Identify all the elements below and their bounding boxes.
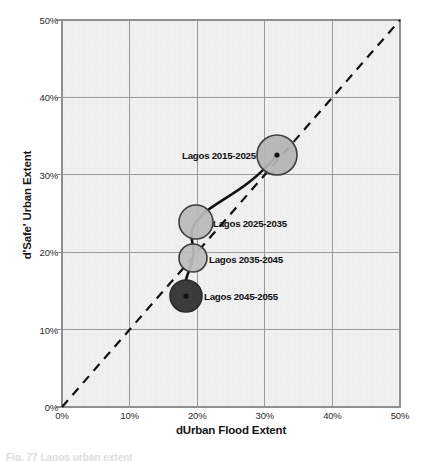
- x-tick-label-40: 40%: [310, 410, 354, 421]
- bubble-lagos-2025-2035[interactable]: [179, 205, 213, 239]
- x-tick-label-30: 30%: [243, 410, 287, 421]
- bubble-lagos-2035-2045[interactable]: [179, 244, 207, 272]
- point-label-lagos-2025-2035: Lagos 2025-2035: [213, 218, 287, 229]
- figure-caption-sliver: Fig. 77 Lagos urban extent: [6, 452, 421, 461]
- x-tick-label-20: 20%: [175, 410, 219, 421]
- point-label-lagos-2015-2025: Lagos 2015-2025: [182, 150, 256, 161]
- x-tick-label-10: 10%: [108, 410, 152, 421]
- y-tick-label-10: 10%: [18, 325, 58, 336]
- y-tick-label-40: 40%: [18, 92, 58, 103]
- y-axis-ticks: [56, 20, 62, 407]
- y-axis-title: d'Safe' Urban Extent: [21, 115, 33, 295]
- point-label-lagos-2045-2055: Lagos 2045-2055: [204, 291, 278, 302]
- x-axis-title: dUrban Flood Extent: [62, 424, 400, 436]
- chart-figure: 0% 10% 20% 30% 40% 50% 0% 10% 20% 30% 40…: [0, 0, 427, 461]
- scatter-plot-canvas: [0, 0, 427, 461]
- x-tick-label-50: 50%: [378, 410, 422, 421]
- x-tick-label-0: 0%: [40, 410, 84, 421]
- y-tick-label-50: 50%: [18, 15, 58, 26]
- point-label-lagos-2035-2045: Lagos 2035-2045: [209, 254, 283, 265]
